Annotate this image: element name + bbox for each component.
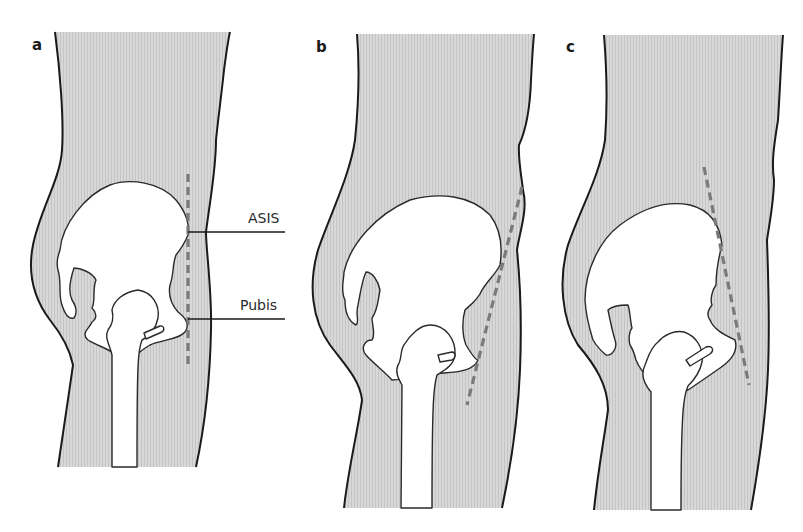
panel-c-figure [563, 35, 783, 510]
pubis-label: Pubis [240, 297, 277, 313]
panel-label-a: a [32, 36, 42, 54]
panel-a-figure [31, 32, 285, 467]
panel-label-b: b [316, 38, 327, 56]
hip-pelvis-illustration [0, 0, 803, 532]
panel-label-c: c [566, 38, 575, 56]
panel-b-figure [313, 34, 534, 508]
asis-label: ASIS [248, 210, 279, 226]
